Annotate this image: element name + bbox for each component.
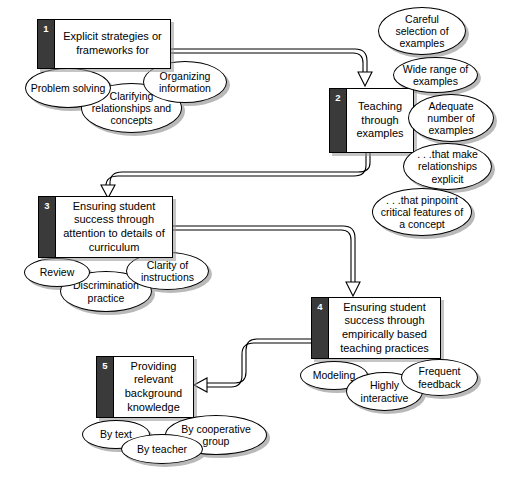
satellite-label: By teacher <box>137 443 187 455</box>
satellite-label: Problem solving <box>31 82 106 94</box>
satellite-by-teacher[interactable]: By teacher <box>121 434 203 464</box>
satellite-wide-range[interactable]: Wide range of examples <box>393 57 478 93</box>
process-box-4[interactable]: 4 Ensuring student success through empir… <box>311 297 441 359</box>
satellite-that-make-relationships-explicit[interactable]: . . .that make relationships explicit <box>403 143 492 190</box>
satellite-label: Frequent feedback <box>406 365 473 389</box>
arrowhead-down-box4 <box>346 282 360 296</box>
satellite-review[interactable]: Review <box>24 258 90 287</box>
process-box-2-label: Teaching through examples <box>347 89 413 152</box>
process-box-4-label: Ensuring student success through empiric… <box>329 298 440 358</box>
satellite-adequate-number[interactable]: Adequate number of examples <box>408 94 494 142</box>
arrowhead-down-box2 <box>358 72 372 86</box>
satellite-problem-solving[interactable]: Problem solving <box>25 68 111 108</box>
satellite-that-pinpoint-critical-features[interactable]: . . .that pinpoint critical features of … <box>372 188 472 236</box>
arrowhead-left-box5 <box>194 378 207 392</box>
process-box-5[interactable]: 5 Providing relevant background knowledg… <box>96 356 194 418</box>
process-box-5-number: 5 <box>97 357 114 417</box>
satellite-label: By text <box>100 428 132 440</box>
satellite-label: Review <box>40 266 74 278</box>
flowchart-diagram: 1 Explicit strategies or frameworks for … <box>0 0 507 483</box>
process-box-5-label: Providing relevant background knowledge <box>114 357 193 417</box>
satellite-label: . . .that pinpoint critical features of … <box>377 194 467 230</box>
satellite-frequent-feedback[interactable]: Frequent feedback <box>401 359 478 396</box>
connector-2-to-3 <box>101 152 370 198</box>
satellite-label: Wide range of examples <box>398 63 473 87</box>
connector-4-to-5 <box>194 339 312 392</box>
process-box-1-label: Explicit strategies or frameworks for <box>55 20 170 68</box>
process-box-2[interactable]: 2 Teaching through examples <box>329 88 414 153</box>
satellite-label: Organizing information <box>148 70 222 94</box>
process-box-3[interactable]: 3 Ensuring student success through atten… <box>38 196 173 258</box>
process-box-1-number: 1 <box>38 20 55 68</box>
satellite-label: Adequate number of examples <box>413 100 489 136</box>
satellite-label: . . .that make relationships explicit <box>408 148 487 184</box>
satellite-careful-selection[interactable]: Careful selection of examples <box>378 7 466 55</box>
satellite-label: Careful selection of examples <box>383 13 461 49</box>
satellite-label: Modeling <box>313 369 356 381</box>
satellite-label: Clarity of instructions <box>131 259 204 283</box>
process-box-1[interactable]: 1 Explicit strategies or frameworks for <box>37 19 171 69</box>
process-box-4-number: 4 <box>312 298 329 358</box>
process-box-3-label: Ensuring student success through attenti… <box>56 197 172 257</box>
process-box-3-number: 3 <box>39 197 56 257</box>
process-box-2-number: 2 <box>330 89 347 152</box>
